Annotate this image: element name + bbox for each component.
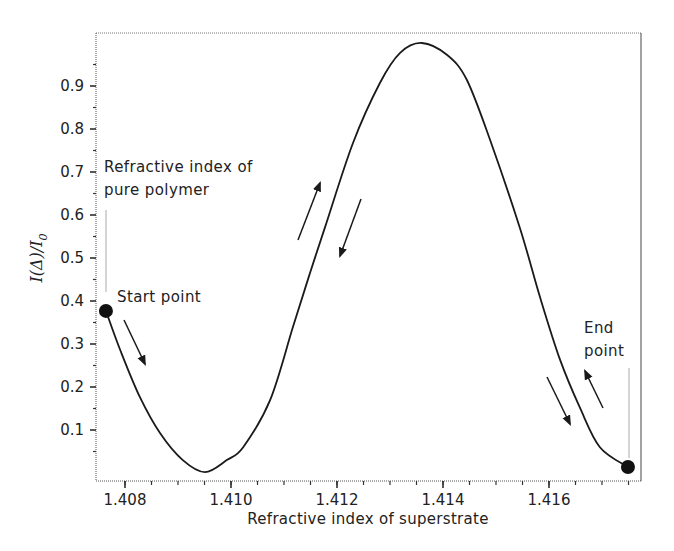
arrow-down-icon — [547, 377, 570, 424]
y-axis-title: I(Δ)/I0 — [27, 233, 50, 283]
y-tick-label: 0.4 — [60, 292, 84, 310]
pure-polymer-label-line2: pure polymer — [104, 181, 210, 199]
x-tick-label: 1.408 — [104, 491, 147, 509]
y-tick-label: 0.6 — [60, 206, 84, 224]
x-tick-label: 1.414 — [422, 491, 465, 509]
chart: 0.10.20.30.40.50.60.70.80.9 1.4081.4101.… — [0, 0, 674, 551]
x-axis-ticks: 1.4081.4101.4121.4141.416 — [104, 481, 629, 509]
arrow-up-icon — [298, 183, 320, 240]
plot-frame — [96, 33, 641, 481]
y-tick-label: 0.2 — [60, 378, 84, 396]
y-tick-label: 0.7 — [60, 163, 84, 181]
start-point-marker — [99, 304, 113, 318]
x-tick-label: 1.410 — [210, 491, 253, 509]
start-point-label: Start point — [117, 288, 201, 306]
y-tick-label: 0.1 — [60, 421, 84, 439]
y-axis-ticks: 0.10.20.30.40.50.60.70.80.9 — [60, 65, 96, 452]
arrow-down-icon — [340, 199, 361, 256]
y-tick-label: 0.9 — [60, 77, 84, 95]
y-tick-label: 0.8 — [60, 120, 84, 138]
end-point-label-line2: point — [584, 342, 624, 360]
pure-polymer-label-line1: Refractive index of — [104, 158, 253, 176]
end-point-marker — [621, 460, 635, 474]
y-tick-label: 0.5 — [60, 249, 84, 267]
arrow-up-icon — [585, 371, 603, 408]
arrow-down-icon — [124, 320, 145, 364]
x-tick-label: 1.412 — [316, 491, 359, 509]
end-point-label-line1: End — [584, 319, 614, 337]
data-curve — [106, 43, 628, 472]
x-axis-title: Refractive index of superstrate — [247, 510, 489, 528]
x-tick-label: 1.416 — [528, 491, 571, 509]
y-tick-label: 0.3 — [60, 335, 84, 353]
